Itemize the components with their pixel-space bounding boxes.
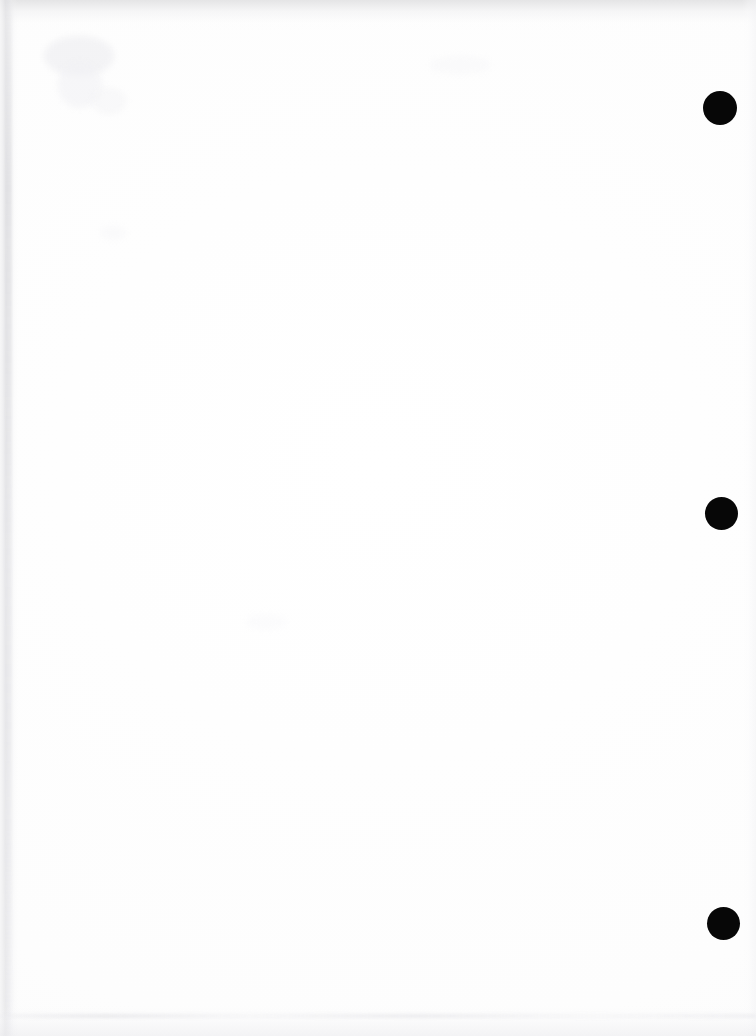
page-body (0, 0, 756, 1036)
scanned-page (0, 0, 756, 1036)
punch-mark-bottom-icon (707, 907, 740, 940)
punch-mark-middle-icon (705, 497, 738, 530)
punch-mark-top-icon (703, 91, 737, 125)
